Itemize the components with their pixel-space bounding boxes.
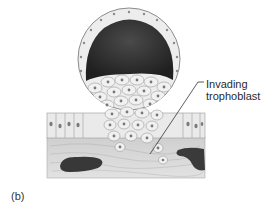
callout-line-1: Invading [206,78,260,90]
panel-label: (b) [11,190,24,202]
implantation-diagram: Invading trophoblast (b) [0,0,274,207]
blastocyst [78,8,180,110]
diagram-artwork [0,0,274,207]
callout-invading-trophoblast: Invading trophoblast [206,78,260,102]
callout-line-2: trophoblast [206,90,260,102]
